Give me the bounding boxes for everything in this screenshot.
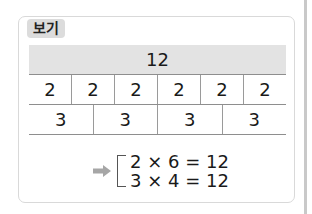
twos-cell: 2 <box>243 75 286 104</box>
threes-cell: 3 <box>222 105 287 134</box>
twos-cell: 2 <box>71 75 114 104</box>
total-row: 12 <box>29 45 286 75</box>
equations: 2 × 6 = 12 3 × 4 = 12 <box>130 152 229 190</box>
example-tag: 보기 <box>27 19 65 38</box>
twos-row: 2 2 2 2 2 2 <box>29 75 286 105</box>
twos-cell: 2 <box>200 75 243 104</box>
twos-cell: 2 <box>29 75 71 104</box>
result-group: 2 × 6 = 12 3 × 4 = 12 <box>93 151 229 191</box>
threes-row: 3 3 3 3 <box>29 105 286 135</box>
division-table: 12 2 2 2 2 2 2 3 3 3 3 <box>29 45 286 135</box>
threes-cell: 3 <box>93 105 158 134</box>
total-value: 12 <box>146 49 169 70</box>
twos-cell: 2 <box>157 75 200 104</box>
threes-cell: 3 <box>157 105 222 134</box>
right-arrow-icon <box>93 165 111 177</box>
bracket-icon <box>117 155 126 187</box>
equation-line: 2 × 6 = 12 <box>130 152 229 171</box>
side-divider <box>304 0 307 214</box>
example-card: 보기 12 2 2 2 2 2 2 3 3 3 3 2 × 6 = 12 3 ×… <box>18 16 295 203</box>
twos-cell: 2 <box>114 75 157 104</box>
equation-line: 3 × 4 = 12 <box>130 171 229 190</box>
threes-cell: 3 <box>29 105 93 134</box>
